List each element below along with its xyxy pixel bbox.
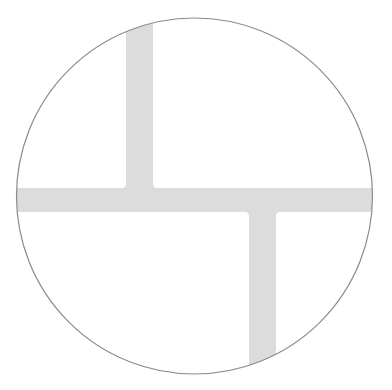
lower-vertical-band [249, 200, 276, 390]
diagram-canvas: Circular cross-section with offset junct… [0, 0, 392, 390]
circle-diagram [0, 0, 392, 390]
horizontal-band [0, 188, 392, 212]
